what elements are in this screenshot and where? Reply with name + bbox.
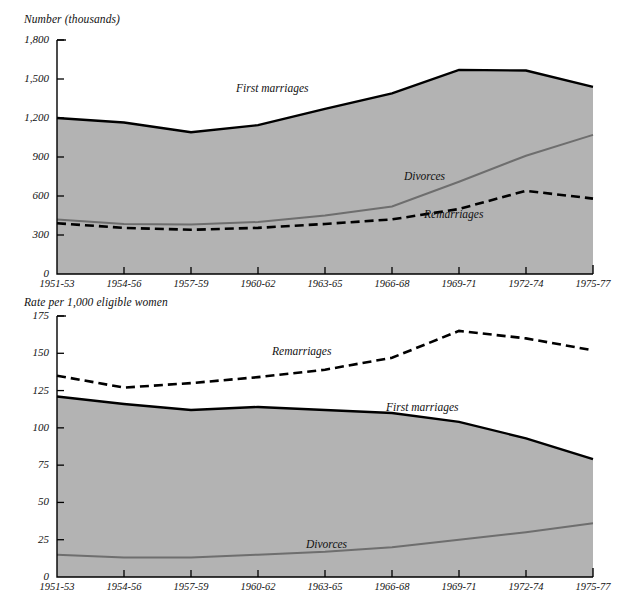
series-label-remarriages-top: Remarriages: [424, 208, 483, 220]
x-tick-1954-56: 1954-56: [86, 278, 162, 289]
y-tick-300: 300: [33, 228, 50, 240]
series-label-first-marriages-bottom: First marriages: [386, 401, 459, 413]
x-tick-1969-71: 1969-71: [421, 581, 497, 592]
x-tick-1951-53: 1951-53: [19, 581, 95, 592]
x-tick-1960-62: 1960-62: [220, 278, 296, 289]
series-label-divorces-bottom: Divorces: [306, 538, 347, 550]
x-tick-1966-68: 1966-68: [354, 581, 430, 592]
y-tick-25: 25: [38, 533, 49, 545]
series-label-divorces-top: Divorces: [404, 170, 445, 182]
series-label-first-marriages-top: First marriages: [236, 82, 309, 94]
y-tick-125: 125: [33, 384, 50, 396]
plot-area-rate: [0, 295, 619, 616]
y-tick-1200: 1,200: [24, 111, 49, 123]
x-tick-1972-74: 1972-74: [488, 278, 564, 289]
y-tick-1500: 1,500: [24, 72, 49, 84]
x-tick-1966-68: 1966-68: [354, 278, 430, 289]
x-tick-1969-71: 1969-71: [421, 278, 497, 289]
x-tick-1963-65: 1963-65: [287, 581, 363, 592]
plot-area-number: [0, 0, 619, 300]
series-label-remarriages-bottom: Remarriages: [272, 345, 331, 357]
chart-panel-rate: Rate per 1,000 eligible women 1751501251…: [0, 295, 619, 616]
y-tick-900: 900: [33, 150, 50, 162]
x-tick-1957-59: 1957-59: [153, 581, 229, 592]
y-tick-1800: 1,800: [24, 33, 49, 45]
x-tick-1954-56: 1954-56: [86, 581, 162, 592]
y-tick-75: 75: [38, 458, 49, 470]
chart-figure: Number (thousands) 1,8001,5001,200900600…: [0, 0, 619, 616]
y-tick-50: 50: [38, 495, 49, 507]
x-tick-1972-74: 1972-74: [488, 581, 564, 592]
chart-panel-number: Number (thousands) 1,8001,5001,200900600…: [0, 0, 619, 300]
x-tick-1963-65: 1963-65: [287, 278, 363, 289]
x-tick-1975-77: 1975-77: [555, 278, 619, 289]
y-tick-600: 600: [33, 189, 50, 201]
x-tick-1951-53: 1951-53: [19, 278, 95, 289]
y-tick-100: 100: [33, 421, 50, 433]
y-tick-175: 175: [33, 309, 50, 321]
x-tick-1960-62: 1960-62: [220, 581, 296, 592]
x-tick-1957-59: 1957-59: [153, 278, 229, 289]
y-tick-150: 150: [33, 346, 50, 358]
x-tick-1975-77: 1975-77: [555, 581, 619, 592]
